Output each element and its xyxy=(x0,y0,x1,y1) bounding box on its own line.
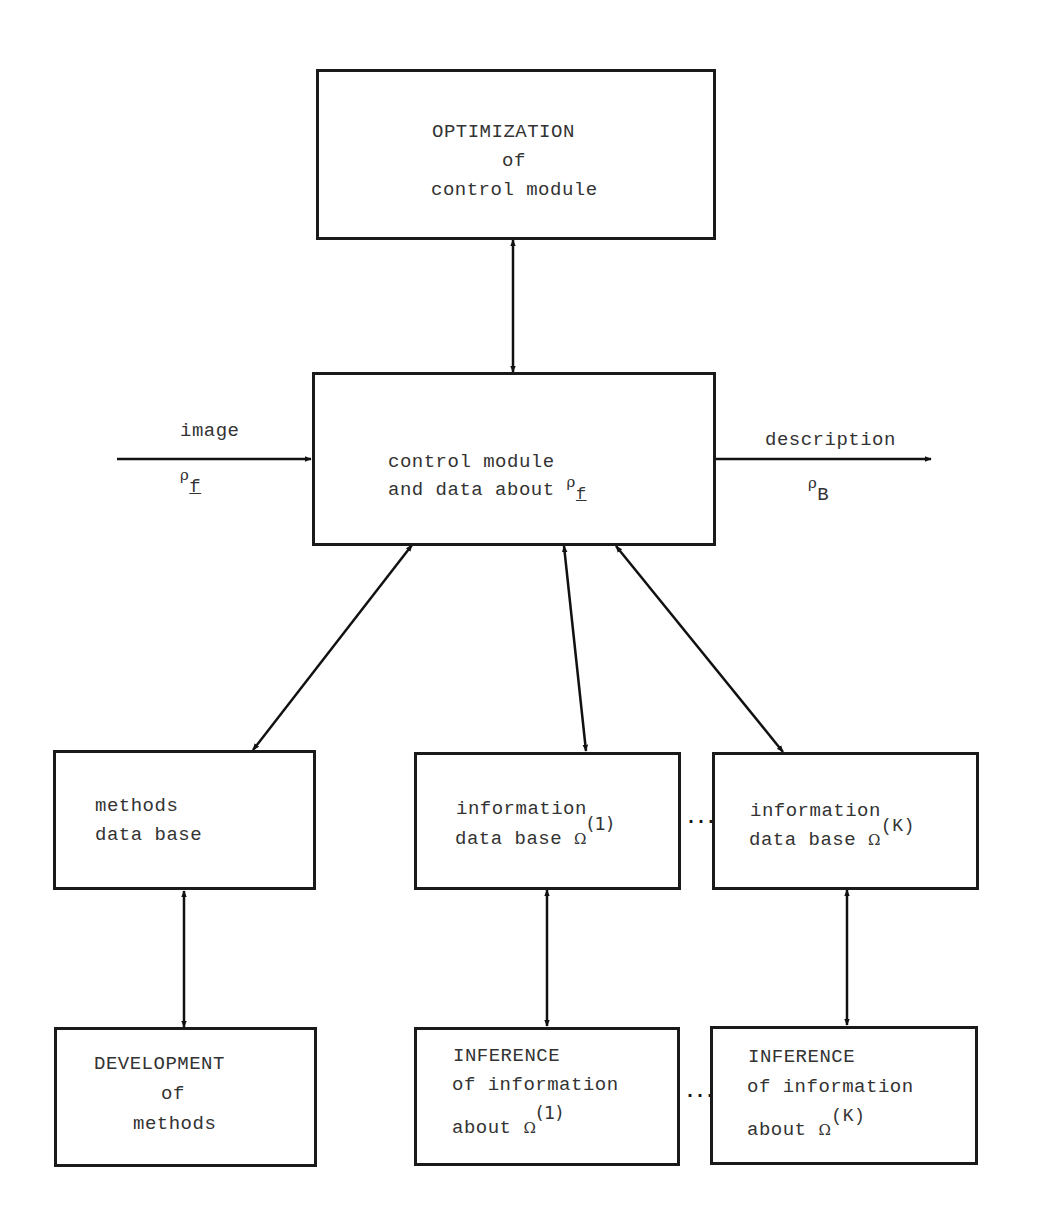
info-db-1-line1: information xyxy=(456,796,587,822)
inference-k-line3-text: about xyxy=(747,1119,807,1141)
rho-symbol: ρ xyxy=(180,466,189,484)
inference-1-line1: INFERENCE xyxy=(453,1043,560,1069)
inference-1-line3: about Ω(1) xyxy=(452,1114,563,1141)
info-db-1-line2: data base Ω(1) xyxy=(455,825,614,852)
edge-control-info-db-k xyxy=(616,546,783,752)
superscript-1: (1) xyxy=(536,1102,563,1123)
rho-symbol: ρ xyxy=(567,473,576,491)
superscript-k: (K) xyxy=(881,816,915,836)
methods-db-line2: data base xyxy=(95,822,202,848)
info-db-k-line2-text: data base xyxy=(749,829,856,851)
info-db-k-line2: data base Ω(K) xyxy=(749,827,915,853)
omega-symbol: Ω xyxy=(868,831,881,849)
f-subscript: f xyxy=(576,485,587,504)
methods-db-box xyxy=(53,750,316,890)
input-label: image xyxy=(180,418,240,444)
output-symbol: ρB xyxy=(808,478,829,504)
b-subscript: B xyxy=(817,484,829,506)
optimization-line2: of xyxy=(502,148,526,174)
info-db-1-line2-text: data base xyxy=(455,828,562,850)
superscript-k: (K) xyxy=(831,1106,865,1126)
inference-1-line3-text: about xyxy=(452,1117,512,1139)
block-diagram: OPTIMIZATION of control module control m… xyxy=(0,0,1039,1223)
optimization-line3: control module xyxy=(431,177,598,203)
input-symbol: ρf xyxy=(180,470,201,496)
control-line2: and data about ρf xyxy=(388,477,587,504)
rho-symbol: ρ xyxy=(808,474,817,492)
development-line1: DEVELOPMENT xyxy=(94,1051,225,1077)
optimization-line1: OPTIMIZATION xyxy=(432,119,575,145)
development-box xyxy=(54,1027,317,1167)
omega-symbol: Ω xyxy=(574,830,587,848)
inference-1-line2: of information xyxy=(452,1072,619,1098)
info-db-k-line1: information xyxy=(750,798,881,824)
superscript-1: (1) xyxy=(587,813,614,834)
inference-k-line1: INFERENCE xyxy=(748,1044,855,1070)
output-label: description xyxy=(765,427,896,453)
inference-k-line2: of information xyxy=(747,1074,914,1100)
omega-symbol: Ω xyxy=(818,1121,831,1139)
edge-control-info-db-1 xyxy=(564,546,586,751)
development-line3: methods xyxy=(133,1111,216,1137)
control-line2-text: and data about xyxy=(388,479,555,501)
development-line2: of xyxy=(161,1081,185,1107)
ellipsis-middle-row: ... xyxy=(685,806,715,829)
inference-k-line3: about Ω(K) xyxy=(747,1117,865,1143)
omega-symbol: Ω xyxy=(523,1119,536,1137)
f-subscript: f xyxy=(189,476,201,498)
control-line1: control module xyxy=(388,449,555,475)
edge-control-methods-db xyxy=(253,545,412,750)
methods-db-line1: methods xyxy=(95,793,178,819)
